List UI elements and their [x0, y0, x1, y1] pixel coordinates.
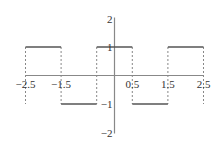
x-tick-labels: −2.5−1.50.51.52.5 [16, 78, 211, 90]
y-tick-label: 1 [107, 41, 113, 53]
x-tick-label: 0.5 [125, 78, 139, 90]
y-tick-label: −1 [101, 98, 113, 110]
x-tick-label: 1.5 [161, 78, 175, 90]
y-tick-label: 2 [107, 13, 113, 25]
x-tick-label: −2.5 [16, 78, 36, 90]
x-tick-label: 2.5 [197, 78, 211, 90]
square-wave-chart: −2.5−1.50.51.52.5 21−1−2 [0, 0, 220, 145]
x-tick-label: −1.5 [51, 78, 71, 90]
y-tick-label: −2 [101, 127, 113, 139]
